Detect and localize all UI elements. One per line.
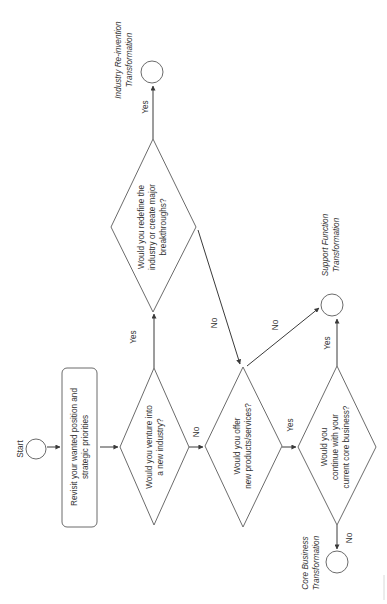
edge-d2-no-d3 xyxy=(198,230,240,364)
process-line-2: strategic priorities xyxy=(81,415,90,479)
terminal-line-1: Core Business xyxy=(301,536,310,589)
decision-line-1: Would you xyxy=(320,427,329,466)
decision-line-2: industry or create major xyxy=(148,184,157,270)
start-circle xyxy=(26,439,46,459)
decision-line-1: Would you venture into xyxy=(145,405,154,489)
edge-label-d3-no: No xyxy=(271,319,280,330)
terminal-support-function: Support Function Transformation xyxy=(321,213,343,316)
decision-new-products: Would you offer new products/services? xyxy=(205,367,282,527)
terminal-line-1: Support Function xyxy=(321,213,330,276)
edge-label-d3-yes: Yes xyxy=(286,418,295,431)
decision-line-2: new products/services? xyxy=(244,403,253,489)
process-box xyxy=(62,368,97,527)
process-line-1: Revisit your wanted position and xyxy=(70,388,79,506)
decision-line-3: breakthroughs? xyxy=(159,198,168,255)
terminal-line-1: Industry Re-invention xyxy=(114,21,123,99)
terminal-line-2: Transformation xyxy=(312,535,321,590)
decision-line-2: a new industry? xyxy=(156,418,165,476)
edge-label-d2-no: No xyxy=(210,317,219,328)
edge-label-d2-yes: Yes xyxy=(141,100,150,113)
terminal-circle xyxy=(326,551,348,573)
decision-redefine-industry: Would you redefine the industry or creat… xyxy=(111,139,196,312)
edge-d3-no-support xyxy=(247,308,319,366)
terminal-circle xyxy=(321,294,343,316)
edge-label-d1-no: No xyxy=(192,426,201,437)
decision-line-2: continue with your xyxy=(331,414,340,480)
decision-core-business: Would you continue with your current cor… xyxy=(298,366,376,525)
start-label: Start xyxy=(16,440,25,458)
decision-diamond xyxy=(120,368,189,525)
decision-line-3: current core business? xyxy=(342,405,351,488)
edge-label-d4-no: No xyxy=(345,532,354,543)
decision-line-1: Would you redefine the xyxy=(137,185,146,270)
terminal-circle xyxy=(141,61,163,83)
process-node: Revisit your wanted position and strateg… xyxy=(62,368,97,527)
terminal-line-2: Transformation xyxy=(125,32,134,87)
flowchart-svg: Start Revisit your wanted position and s… xyxy=(0,0,387,604)
terminal-core-business: Core Business Transformation xyxy=(301,535,348,590)
start-node: Start xyxy=(16,439,46,459)
terminal-industry-reinvention: Industry Re-invention Transformation xyxy=(114,21,163,99)
terminal-line-2: Transformation xyxy=(332,217,341,272)
decision-line-1: Would you offer xyxy=(233,417,242,474)
flowchart-canvas: Start Revisit your wanted position and s… xyxy=(0,0,387,604)
edge-label-d4-yes: Yes xyxy=(323,336,332,349)
decision-new-industry: Would you venture into a new industry? xyxy=(120,368,189,525)
edge-label-d1-yes: Yes xyxy=(129,330,138,343)
